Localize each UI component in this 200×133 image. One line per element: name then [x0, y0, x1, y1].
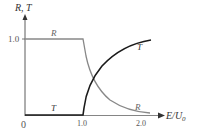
y-axis-label: R, T: [14, 2, 33, 13]
series-r-line: [25, 39, 150, 113]
y-axis-arrow-icon: [23, 14, 28, 20]
x-axis-arrow-icon: [158, 113, 165, 119]
xtick-label-2: 2.0: [136, 119, 146, 128]
r-label-bottom: R: [134, 102, 141, 112]
t-label-top: T: [137, 42, 143, 52]
series-t-line: [25, 40, 151, 115]
xtick-label-1: 1.0: [77, 119, 87, 128]
t-label-bottom: T: [51, 103, 57, 113]
ytick-label-1: 1.0: [8, 34, 20, 44]
r-label-top: R: [50, 28, 57, 38]
origin-label: 0: [21, 119, 26, 130]
x-axis-label: E/U0: [165, 110, 186, 123]
chart: 1.0 0 1.0 2.0 R, T E/U0 R T T R: [0, 0, 200, 133]
